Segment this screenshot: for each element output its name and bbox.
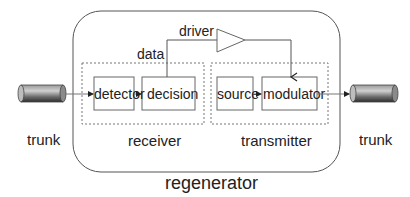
- decision-label: decision: [147, 86, 198, 102]
- driver-label: driver: [179, 23, 214, 39]
- source-label: source: [217, 86, 259, 102]
- data-line: [167, 40, 217, 77]
- driver-to-modulator-arrow: [245, 40, 291, 77]
- trunk-left-cylinder-icon: [18, 85, 66, 102]
- trunk-right-cylinder-icon: [350, 85, 398, 102]
- receiver-label: receiver: [128, 132, 181, 149]
- modulator-label: modulator: [263, 86, 326, 102]
- trunk-left-label: trunk: [27, 131, 61, 148]
- trunk-right-label: trunk: [359, 131, 393, 148]
- regenerator-diagram: detector decision source modulator data …: [0, 0, 410, 197]
- transmitter-label: transmitter: [241, 132, 312, 149]
- driver-amplifier-icon: [217, 29, 245, 52]
- data-label: data: [137, 46, 164, 62]
- regenerator-title: regenerator: [165, 173, 258, 193]
